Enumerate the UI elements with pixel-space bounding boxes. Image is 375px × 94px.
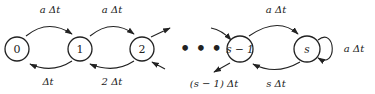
node-s: s (294, 36, 320, 62)
edge-0-1 (26, 26, 72, 36)
label-1-0: Δt (41, 76, 54, 87)
label-0-1: a Δt (40, 4, 61, 15)
edge-1-2 (90, 26, 134, 36)
label-2-1: 2 Δt (101, 76, 124, 87)
svg-text:2: 2 (139, 43, 146, 56)
node-s-minus-1: s − 1 (226, 36, 254, 62)
edge-s-1-s (249, 25, 298, 36)
label-1-2: a Δt (102, 4, 123, 15)
label-s-1-s: a Δt (266, 4, 287, 15)
node-1: 1 (68, 37, 92, 61)
edge-1-0 (30, 61, 72, 68)
ellipsis: • • • (180, 39, 222, 58)
edge-s-s-1 (253, 62, 300, 70)
svg-text:0: 0 (14, 43, 21, 56)
svg-text:1: 1 (77, 43, 84, 56)
svg-text:s: s (304, 43, 310, 55)
node-0: 0 (5, 37, 29, 61)
edge-2-out (151, 28, 170, 37)
svg-text:s − 1: s − 1 (226, 43, 254, 55)
state-diagram: 0 1 2 s − 1 s • • • a Δt a Δt Δt 2 Δt a … (0, 0, 375, 94)
edge-s-1-out (214, 63, 230, 72)
label-s-self: a Δt (344, 43, 365, 54)
node-2: 2 (130, 37, 154, 61)
label-s-s-1: s Δt (266, 78, 287, 89)
label-s-1-out: (s − 1) Δt (190, 78, 239, 89)
edge-in-2 (152, 62, 165, 69)
edge-2-1 (90, 61, 134, 68)
